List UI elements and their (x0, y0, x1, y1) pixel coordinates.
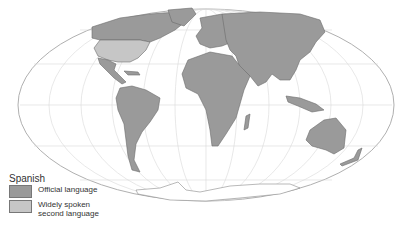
official-language-swatch (9, 185, 32, 198)
legend-label-second: Widely spoken second language (38, 200, 108, 218)
legend: Spanish Official language Widely spoken … (9, 173, 108, 220)
second-language-swatch (9, 200, 32, 213)
legend-label-official: Official language (38, 185, 108, 194)
legend-title: Spanish (9, 173, 108, 184)
legend-item-official: Official language (9, 185, 108, 198)
legend-item-second: Widely spoken second language (9, 200, 108, 218)
